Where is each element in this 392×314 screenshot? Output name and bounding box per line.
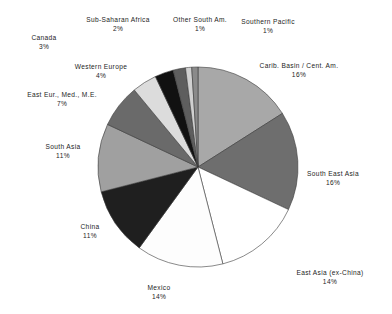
pie-chart-page: Carib. Basin / Cent. Am.16%South East As…: [0, 0, 392, 314]
pie-slices-group: [98, 67, 298, 267]
pie-chart: [0, 0, 392, 314]
